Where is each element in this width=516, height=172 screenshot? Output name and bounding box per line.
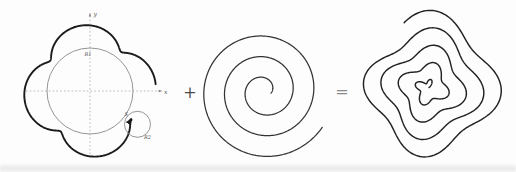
x-axis-arrow-icon [159, 90, 163, 93]
tracing-point-label: S [125, 111, 129, 117]
scanned-figure: x y R1 R2 S + = [0, 0, 516, 172]
plus-operator: + [183, 83, 196, 102]
middle-figure [204, 36, 322, 156]
y-axis-label: y [93, 10, 98, 18]
equals-operator: = [335, 82, 348, 101]
y-axis-arrow-icon [89, 13, 92, 17]
base-circle-label: R1 [84, 51, 92, 57]
right-figure [363, 10, 501, 157]
diagram-svg: x y R1 R2 S + = [0, 0, 516, 172]
left-figure: x y R1 R2 S [24, 10, 168, 158]
spiral-curve [204, 36, 322, 156]
wavy-spiral-curve [363, 10, 501, 157]
rolling-circle-label: R2 [143, 134, 151, 140]
tracing-point [129, 118, 132, 121]
base-circle [47, 48, 133, 134]
x-axis-label: x [164, 88, 168, 95]
